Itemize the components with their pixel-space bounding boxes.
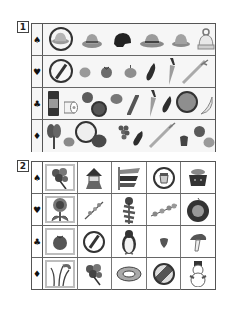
brimmed-hat-icon[interactable] bbox=[81, 30, 103, 50]
tomato-icon[interactable] bbox=[100, 65, 113, 78]
cell-tomato[interactable] bbox=[43, 226, 78, 257]
cell-circled-pudding[interactable] bbox=[147, 162, 182, 193]
circled-pudding-icon bbox=[153, 167, 175, 189]
cell-swim-ring[interactable] bbox=[112, 258, 147, 290]
table2-row-diamond: ♦ bbox=[32, 258, 215, 290]
diamond-icon: ♦ bbox=[32, 120, 43, 152]
kagami-mochi-icon bbox=[187, 167, 209, 189]
tomato-icon[interactable] bbox=[193, 124, 206, 137]
black-helmet-icon[interactable] bbox=[111, 30, 133, 50]
spinach-icon[interactable] bbox=[47, 123, 61, 149]
cell-beach-ball[interactable] bbox=[147, 258, 182, 290]
green-onion-icon[interactable] bbox=[148, 122, 176, 149]
cucumber-icon[interactable] bbox=[127, 95, 139, 115]
onion-icon[interactable] bbox=[124, 65, 137, 78]
cell-strawberry[interactable] bbox=[147, 226, 182, 257]
swim-ring-icon bbox=[116, 266, 142, 282]
carrot-icon[interactable] bbox=[165, 58, 177, 86]
flower-bouquet-icon bbox=[49, 166, 71, 190]
eggplant-icon[interactable] bbox=[161, 95, 173, 115]
cell-pampas-grass[interactable] bbox=[43, 258, 78, 290]
plum-blossom-branch-icon bbox=[83, 199, 105, 221]
club-icon: ♣ bbox=[32, 88, 43, 119]
picture-table-1: ♠ ♥ ♣ bbox=[31, 23, 216, 152]
mushroom-icon bbox=[189, 232, 207, 252]
table1-row-club: ♣ bbox=[32, 88, 215, 120]
kabuto-doll-icon bbox=[83, 166, 105, 190]
snowman-icon bbox=[188, 261, 208, 287]
heart-icon: ♥ bbox=[32, 56, 43, 87]
table1-row-spade: ♠ bbox=[32, 24, 215, 56]
cell-autumn-wreath[interactable] bbox=[181, 194, 215, 225]
cell-flower-bouquet[interactable] bbox=[43, 162, 78, 193]
cell-plum-blossom-branch[interactable] bbox=[78, 194, 113, 225]
question-label-1: 1 bbox=[17, 21, 29, 33]
spade-icon: ♠ bbox=[32, 162, 43, 193]
flower-bouquet-icon bbox=[83, 262, 105, 286]
beach-ball-icon bbox=[153, 263, 175, 285]
table1-row-heart: ♥ bbox=[32, 56, 215, 88]
onion-icon[interactable] bbox=[63, 135, 75, 147]
club-icon: ♣ bbox=[32, 226, 43, 257]
carrot-icon[interactable] bbox=[146, 90, 158, 118]
pampas-grass-icon bbox=[49, 262, 71, 286]
cell-cherry-blossom-branch[interactable] bbox=[147, 194, 182, 225]
crossed-out-circle-icon[interactable] bbox=[49, 59, 73, 83]
koinobori-carp-streamers-icon bbox=[116, 166, 142, 190]
tanabata-bamboo-icon bbox=[121, 196, 137, 224]
tomato-icon[interactable] bbox=[81, 90, 94, 103]
potato-icon[interactable] bbox=[79, 67, 91, 78]
eggplant-icon[interactable] bbox=[145, 61, 157, 83]
question-label-2: 2 bbox=[17, 160, 29, 172]
cell-tanabata-bamboo[interactable] bbox=[112, 194, 147, 225]
circled-plate-icon[interactable] bbox=[91, 101, 107, 117]
crossed-out-circle-icon bbox=[83, 231, 105, 253]
potato-icon[interactable] bbox=[203, 137, 215, 148]
cell-snowman[interactable] bbox=[181, 258, 215, 290]
onion-icon[interactable] bbox=[110, 92, 123, 104]
strawberry-icon bbox=[159, 236, 169, 248]
table2-row-spade: ♠ bbox=[32, 162, 215, 194]
table2-row-heart: ♥ bbox=[32, 194, 215, 226]
cell-crossed-out-circle[interactable] bbox=[78, 226, 113, 257]
fedora-hat-icon[interactable] bbox=[139, 30, 165, 50]
eggplant-icon[interactable] bbox=[132, 130, 144, 148]
table1-row-diamond: ♦ bbox=[32, 120, 215, 152]
cell-sunflower[interactable] bbox=[43, 194, 78, 225]
autumn-wreath-icon bbox=[186, 197, 210, 223]
circled-grapes-icon[interactable] bbox=[176, 91, 198, 113]
cell-mushroom[interactable] bbox=[181, 226, 215, 257]
circled-hat-icon[interactable] bbox=[49, 27, 73, 51]
cherry-blossom-branch-icon bbox=[150, 201, 178, 219]
cell-kagami-mochi[interactable] bbox=[181, 162, 215, 193]
pumpkin-icon[interactable] bbox=[91, 133, 107, 148]
banana-icon[interactable] bbox=[200, 96, 214, 116]
cell-koinobori[interactable] bbox=[112, 162, 147, 193]
grapes-icon[interactable] bbox=[118, 124, 130, 140]
heart-icon: ♥ bbox=[32, 194, 43, 225]
green-onion-icon[interactable] bbox=[181, 59, 209, 85]
diamond-icon: ♦ bbox=[32, 258, 43, 290]
cell-penguin[interactable] bbox=[112, 226, 147, 257]
cell-flower-bouquet[interactable] bbox=[78, 258, 113, 290]
cell-kabuto-doll[interactable] bbox=[78, 162, 113, 193]
picture-table-2: ♠ ♥ bbox=[31, 161, 216, 290]
jar-icon[interactable] bbox=[48, 91, 59, 116]
tomato-icon bbox=[52, 234, 68, 250]
bell-pepper-icon[interactable] bbox=[179, 134, 189, 147]
toilet-paper-icon[interactable] bbox=[64, 100, 78, 114]
sunflower-icon bbox=[50, 197, 70, 223]
penguin-icon bbox=[120, 229, 138, 255]
table2-row-club: ♣ bbox=[32, 226, 215, 258]
spade-icon: ♠ bbox=[32, 24, 43, 55]
knit-cap-icon[interactable] bbox=[197, 27, 215, 51]
bucket-hat-icon[interactable] bbox=[171, 30, 191, 50]
